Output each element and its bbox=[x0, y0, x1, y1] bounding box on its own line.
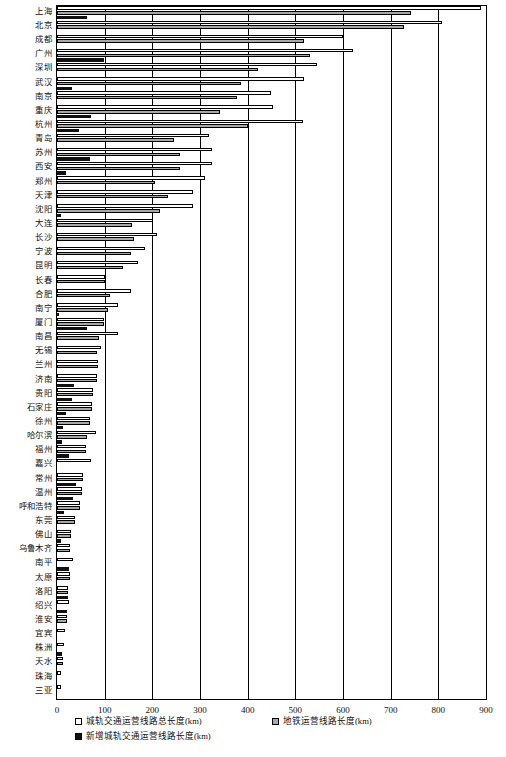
bar-added bbox=[57, 426, 63, 430]
bar-total bbox=[57, 204, 193, 208]
bar-total bbox=[57, 346, 101, 350]
bar-added bbox=[57, 567, 69, 571]
bar-added bbox=[57, 313, 59, 317]
bar-added bbox=[57, 483, 76, 487]
category-label: 温州 bbox=[35, 488, 52, 497]
x-tick-label: 400 bbox=[241, 705, 255, 715]
bar-row bbox=[57, 77, 486, 91]
bar-total bbox=[57, 600, 69, 604]
category-label: 淮安 bbox=[35, 615, 52, 624]
bar-total bbox=[57, 629, 65, 633]
bar-row bbox=[57, 289, 486, 303]
bar-row bbox=[57, 275, 486, 289]
bar-row bbox=[57, 614, 486, 628]
bar-row bbox=[57, 459, 486, 473]
bar-metro bbox=[57, 237, 134, 241]
bar-total bbox=[57, 77, 304, 81]
bar-metro bbox=[57, 110, 220, 114]
bar-total bbox=[57, 501, 80, 505]
bar-row bbox=[57, 119, 486, 133]
legend-item-total[interactable]: 城轨交通运营线路总长度(km) bbox=[75, 716, 202, 726]
bar-rows bbox=[57, 6, 486, 699]
category-label: 洛阳 bbox=[35, 587, 52, 596]
bar-total bbox=[57, 516, 75, 520]
x-tick-label: 0 bbox=[55, 705, 60, 715]
bar-metro bbox=[57, 54, 310, 58]
bar-row bbox=[57, 416, 486, 430]
bar-row bbox=[57, 543, 486, 557]
bar-metro bbox=[57, 68, 258, 72]
bar-metro bbox=[57, 549, 70, 553]
bar-total bbox=[57, 544, 70, 548]
category-label: 宁波 bbox=[35, 247, 52, 256]
bar-metro bbox=[57, 308, 108, 312]
bar-row bbox=[57, 48, 486, 62]
bar-total bbox=[57, 120, 303, 124]
bar-metro bbox=[57, 322, 104, 326]
bar-row bbox=[57, 374, 486, 388]
category-label: 常州 bbox=[35, 474, 52, 483]
category-label: 天水 bbox=[35, 657, 52, 666]
gray-square-icon bbox=[272, 718, 279, 725]
legend-label-added: 新增城轨交通运营线路长度(km) bbox=[86, 731, 211, 741]
bar-metro bbox=[57, 619, 67, 623]
bar-row bbox=[57, 91, 486, 105]
bar-added bbox=[57, 596, 68, 600]
x-tick-label: 200 bbox=[146, 705, 160, 715]
legend-label-metro: 地铁运营线路长度(km) bbox=[283, 716, 372, 726]
bar-total bbox=[57, 105, 273, 109]
bar-metro bbox=[57, 450, 86, 454]
bar-total bbox=[57, 219, 153, 223]
x-tick-label: 800 bbox=[432, 705, 446, 715]
bar-metro bbox=[57, 534, 71, 538]
bar-total bbox=[57, 289, 131, 293]
bar-metro bbox=[57, 153, 180, 157]
bar-total bbox=[57, 374, 97, 378]
bar-total bbox=[57, 49, 353, 53]
bar-total bbox=[57, 459, 91, 463]
bar-row bbox=[57, 162, 486, 176]
bar-added bbox=[57, 539, 61, 543]
bar-row bbox=[57, 685, 486, 699]
bar-row bbox=[57, 147, 486, 161]
category-label: 三亚 bbox=[35, 686, 52, 695]
bar-row bbox=[57, 345, 486, 359]
category-label: 南昌 bbox=[35, 332, 52, 341]
bar-total bbox=[57, 417, 90, 421]
bar-added bbox=[57, 327, 87, 331]
bar-row bbox=[57, 317, 486, 331]
category-label: 郑州 bbox=[35, 177, 52, 186]
bar-total bbox=[57, 35, 343, 39]
category-axis-labels: 上海北京成都广州深圳武汉南京重庆杭州青岛苏州西安郑州天津沈阳大连长沙宁波昆明长春… bbox=[0, 5, 54, 700]
legend-item-metro[interactable]: 地铁运营线路长度(km) bbox=[272, 716, 372, 726]
category-label: 兰州 bbox=[35, 360, 52, 369]
bar-added bbox=[57, 171, 66, 175]
bar-added bbox=[57, 610, 67, 614]
bar-row bbox=[57, 331, 486, 345]
bar-total bbox=[57, 233, 157, 237]
bar-metro bbox=[57, 25, 404, 29]
bar-row bbox=[57, 572, 486, 586]
bar-metro bbox=[57, 379, 97, 383]
bar-row bbox=[57, 529, 486, 543]
x-tick-label: 100 bbox=[98, 705, 112, 715]
category-label: 南京 bbox=[35, 92, 52, 101]
bar-added bbox=[57, 129, 79, 133]
x-tick-label: 900 bbox=[479, 705, 493, 715]
category-label: 沈阳 bbox=[35, 205, 52, 214]
category-label: 宜宾 bbox=[35, 629, 52, 638]
category-label: 昆明 bbox=[35, 261, 52, 270]
bar-total bbox=[57, 473, 83, 477]
bar-metro bbox=[57, 506, 80, 510]
category-label: 福州 bbox=[35, 445, 52, 454]
category-label: 哈尔滨 bbox=[27, 431, 52, 440]
category-label: 杭州 bbox=[35, 120, 52, 129]
legend-item-added[interactable]: 新增城轨交通运营线路长度(km) bbox=[75, 731, 211, 741]
category-label: 大连 bbox=[35, 219, 52, 228]
bar-added bbox=[57, 652, 62, 656]
category-label: 株洲 bbox=[35, 643, 52, 652]
black-square-icon bbox=[75, 733, 82, 740]
bar-row bbox=[57, 218, 486, 232]
x-tick-label: 700 bbox=[384, 705, 398, 715]
bar-total bbox=[57, 402, 92, 406]
